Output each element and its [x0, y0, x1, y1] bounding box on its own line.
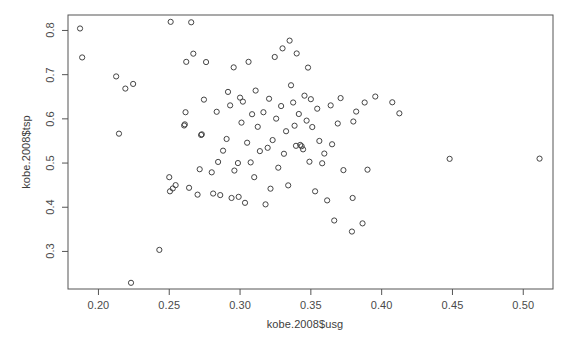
scatter-point: [116, 131, 121, 136]
scatter-point: [157, 247, 162, 252]
scatter-point: [274, 116, 279, 121]
scatter-point: [248, 160, 253, 165]
scatter-point: [77, 26, 82, 31]
scatter-point: [214, 109, 219, 114]
scatter-point: [272, 54, 277, 59]
scatter-point: [189, 20, 194, 25]
y-tick-label: 0.3: [44, 244, 56, 260]
scatter-point: [315, 106, 320, 111]
scatter-point: [360, 221, 365, 226]
scatter-point: [183, 110, 188, 115]
scatter-point: [240, 99, 245, 104]
scatter-point: [209, 170, 214, 175]
scatter-point: [168, 19, 173, 24]
scatter-point: [220, 148, 225, 153]
scatter-point: [263, 202, 268, 207]
scatter-point: [304, 118, 309, 123]
scatter-point: [373, 94, 378, 99]
scatter-point: [292, 123, 297, 128]
scatter-point: [310, 124, 315, 129]
scatter-plot-figure: 0.200.250.300.350.400.450.50 0.30.40.50.…: [0, 0, 568, 347]
scatter-point: [203, 59, 208, 64]
x-axis-title: kobe.2008$usg: [267, 318, 344, 330]
scatter-point: [253, 88, 258, 93]
scatter-point: [211, 191, 216, 196]
scatter-point: [236, 194, 241, 199]
scatter-point: [286, 183, 291, 188]
scatter-point: [195, 192, 200, 197]
scatter-point: [313, 189, 318, 194]
scatter-point: [299, 144, 304, 149]
scatter-point: [218, 192, 223, 197]
scatter-point: [123, 86, 128, 91]
scatter-point: [308, 97, 313, 102]
scatter-point: [350, 195, 355, 200]
scatter-point: [302, 93, 307, 98]
x-tick-label: 0.30: [229, 299, 251, 311]
scatter-point: [341, 168, 346, 173]
scatter-point: [186, 185, 191, 190]
scatter-point: [80, 55, 85, 60]
x-tick-label: 0.40: [371, 299, 393, 311]
scatter-point: [191, 51, 196, 56]
scatter-point: [232, 168, 237, 173]
scatter-point: [197, 167, 202, 172]
y-tick-label: 0.4: [44, 199, 56, 215]
y-tick-label: 0.8: [44, 23, 56, 39]
scatter-point: [128, 280, 133, 285]
scatter-point: [261, 110, 266, 115]
scatter-point: [287, 38, 292, 43]
x-tick-label: 0.45: [442, 299, 464, 311]
scatter-point: [245, 140, 250, 145]
scatter-point: [268, 186, 273, 191]
y-tick-label: 0.5: [44, 155, 56, 171]
plot-canvas: [0, 0, 568, 347]
scatter-point: [390, 100, 395, 105]
scatter-point: [281, 151, 286, 156]
scatter-point: [307, 159, 312, 164]
scatter-point: [349, 229, 354, 234]
scatter-point: [338, 95, 343, 100]
y-axis-title: kobe.2008$tsp: [20, 115, 32, 188]
scatter-point: [317, 138, 322, 143]
axis-box: [68, 15, 553, 289]
scatter-point: [296, 111, 301, 116]
scatter-point: [280, 46, 285, 51]
scatter-point: [335, 121, 340, 126]
scatter-point: [265, 145, 270, 150]
scatter-point: [114, 74, 119, 79]
scatter-point: [300, 147, 305, 152]
scatter-point: [131, 81, 136, 86]
x-axis-ticks: [98, 289, 523, 295]
y-axis-ticks: [62, 30, 68, 251]
scatter-point: [231, 65, 236, 70]
scatter-point: [283, 129, 288, 134]
scatter-point: [173, 183, 178, 188]
scatter-point: [279, 103, 284, 108]
x-tick-label: 0.25: [158, 299, 180, 311]
scatter-point: [228, 103, 233, 108]
scatter-point: [235, 160, 240, 165]
y-tick-label: 0.7: [44, 67, 56, 83]
scatter-point: [276, 165, 281, 170]
x-tick-label: 0.20: [88, 299, 110, 311]
scatter-point: [239, 120, 244, 125]
x-tick-label: 0.35: [300, 299, 322, 311]
scatter-point: [225, 89, 230, 94]
scatter-point: [288, 83, 293, 88]
scatter-point: [246, 59, 251, 64]
scatter-point: [305, 65, 310, 70]
scatter-point: [255, 124, 260, 129]
scatter-point: [397, 111, 402, 116]
scatter-point: [266, 96, 271, 101]
scatter-point: [362, 100, 367, 105]
scatter-point: [351, 119, 356, 124]
x-tick-label: 0.50: [512, 299, 534, 311]
scatter-point: [270, 137, 275, 142]
scatter-point: [332, 218, 337, 223]
scatter-point: [229, 195, 234, 200]
scatter-point: [249, 112, 254, 117]
scatter-point: [252, 175, 257, 180]
scatter-point: [329, 142, 334, 147]
scatter-point: [294, 51, 299, 56]
